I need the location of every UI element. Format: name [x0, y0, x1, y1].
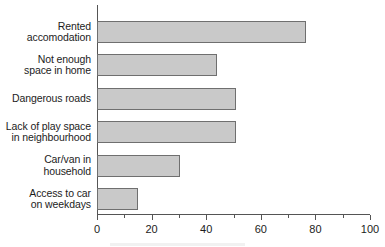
category-axis-labels: RentedaccomodationNot enoughspace in hom…: [0, 0, 94, 215]
category-label: Car/van inhousehold: [0, 154, 91, 177]
x-axis-tick: [97, 215, 98, 220]
category-label: Dangerous roads: [0, 93, 91, 105]
category-label: Not enoughspace in home: [0, 54, 91, 77]
x-axis-minor-tick: [124, 215, 125, 218]
plot-area: 020406080100: [97, 5, 370, 215]
bar: [97, 21, 306, 43]
x-axis-tick: [206, 215, 207, 220]
x-axis-minor-tick: [343, 215, 344, 218]
category-label-line: on weekdays: [0, 199, 91, 211]
category-label-line: accomodation: [0, 32, 91, 44]
x-axis-tick-label: 0: [77, 223, 117, 235]
category-label-line: space in home: [0, 65, 91, 77]
x-axis-tick-label: 40: [186, 223, 226, 235]
bar: [97, 155, 180, 177]
x-axis-tick: [370, 215, 371, 220]
bar: [97, 121, 236, 143]
x-axis-tick: [261, 215, 262, 220]
category-label-line: Dangerous roads: [0, 93, 91, 105]
category-label-line: Car/van in: [0, 154, 91, 166]
x-axis-minor-tick: [234, 215, 235, 218]
x-axis-tick-label: 20: [132, 223, 172, 235]
x-axis-tick: [152, 215, 153, 220]
x-axis-tick-label: 80: [295, 223, 335, 235]
category-label: Access to caron weekdays: [0, 188, 91, 211]
x-axis-tick-label: 60: [241, 223, 281, 235]
x-axis-minor-tick: [288, 215, 289, 218]
x-axis-tick: [315, 215, 316, 220]
x-axis-tick-label: 100: [350, 223, 385, 235]
bar: [97, 54, 217, 76]
x-axis-minor-tick: [179, 215, 180, 218]
bar: [97, 88, 236, 110]
bar-chart: RentedaccomodationNot enoughspace in hom…: [0, 0, 385, 247]
category-label-line: in neighbourhood: [0, 132, 91, 144]
category-label: Rentedaccomodation: [0, 21, 91, 44]
bar: [97, 188, 138, 210]
category-label: Lack of play spacein neighbourhood: [0, 121, 91, 144]
scan-artifact: [110, 243, 245, 246]
category-label-line: household: [0, 166, 91, 178]
